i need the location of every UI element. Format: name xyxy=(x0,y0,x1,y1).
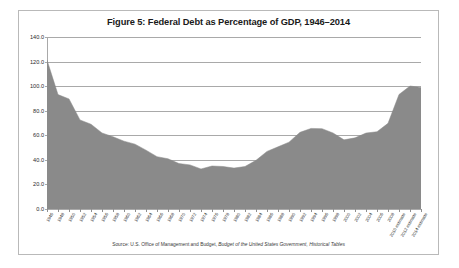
y-axis-label: 80.0 xyxy=(33,108,44,114)
x-axis-label: 1978 xyxy=(221,212,230,223)
figure-container: Figure 5: Federal Debt as Percentage of … xyxy=(18,10,439,255)
x-axis-label: 1982 xyxy=(243,212,252,223)
x-axis-label: 2002 xyxy=(353,212,362,223)
plot-area: 0.020.040.060.080.0100.0120.0140.0 xyxy=(47,37,421,209)
x-axis-label: 2000 xyxy=(342,212,351,223)
plot-wrapper: 0.020.040.060.080.0100.0120.0140.0 xyxy=(47,37,421,209)
x-axis-label: 1970 xyxy=(177,212,186,223)
source-publication: Budget of the United States Government, … xyxy=(218,242,345,247)
y-axis-label: 100.0 xyxy=(30,83,44,89)
chart-page: Figure 5: Federal Debt as Percentage of … xyxy=(0,0,459,268)
x-axis-label: 1998 xyxy=(331,212,340,223)
x-axis-label: 1952 xyxy=(78,212,87,223)
x-axis-label: 1948 xyxy=(56,212,65,223)
y-axis-label: 0.0 xyxy=(36,206,44,212)
x-axis-label: 1974 xyxy=(199,212,208,223)
x-axis-label: 1964 xyxy=(144,212,153,223)
x-axis-label: 1946 xyxy=(45,212,54,223)
x-axis-label: 1966 xyxy=(155,212,164,223)
x-axis-labels: 1946194819501952195419561958196019621964… xyxy=(47,212,421,246)
x-axis-label: 1990 xyxy=(287,212,296,223)
x-axis-label: 1988 xyxy=(276,212,285,223)
x-axis-label: 1980 xyxy=(232,212,241,223)
x-axis-label: 1960 xyxy=(122,212,131,223)
x-axis-label: 1994 xyxy=(309,212,318,223)
y-axis-label: 140.0 xyxy=(30,34,44,40)
x-axis-label: 2006 xyxy=(375,212,384,223)
x-axis-label: 2004 xyxy=(364,212,373,223)
source-prefix: Source: U.S. Office of Management and Bu… xyxy=(112,242,218,247)
y-axis-label: 20.0 xyxy=(33,181,44,187)
x-axis-label: 1972 xyxy=(188,212,197,223)
x-axis-label: 1956 xyxy=(100,212,109,223)
debt-area-series xyxy=(47,37,421,209)
x-axis-label: 1950 xyxy=(67,212,76,223)
y-axis-label: 60.0 xyxy=(33,132,44,138)
x-axis-label: 1958 xyxy=(111,212,120,223)
area-path xyxy=(47,60,421,209)
x-axis-label: 1976 xyxy=(210,212,219,223)
y-axis-label: 120.0 xyxy=(30,59,44,65)
x-axis-label: 1968 xyxy=(166,212,175,223)
y-axis-label: 40.0 xyxy=(33,157,44,163)
source-note: Source: U.S. Office of Management and Bu… xyxy=(19,242,438,247)
x-axis-label: 1984 xyxy=(254,212,263,223)
x-axis-label: 2008 xyxy=(386,212,395,223)
x-axis-label: 1962 xyxy=(133,212,142,223)
x-axis-label: 1986 xyxy=(265,212,274,223)
x-axis-label: 1996 xyxy=(320,212,329,223)
x-axis-tick xyxy=(421,209,422,212)
x-axis-label: 1954 xyxy=(89,212,98,223)
x-axis-label: 1992 xyxy=(298,212,307,223)
page-title: Figure 5: Federal Debt as Percentage of … xyxy=(19,17,438,27)
